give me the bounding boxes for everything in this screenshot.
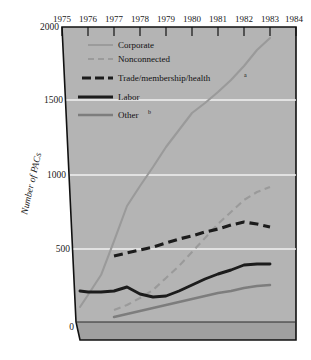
ytick-label-500: 500 xyxy=(56,244,71,254)
chart-svg: 1975 1976 1977 1978 1979 1980 1981 1982 … xyxy=(0,0,311,360)
pac-growth-chart: 1975 1976 1977 1978 1979 1980 1981 1982 … xyxy=(0,0,311,360)
legend-label-other: Other xyxy=(118,110,139,120)
ytick-label-0: 0 xyxy=(69,322,74,332)
legend-label-corporate: Corporate xyxy=(118,40,154,50)
legend-footnote-other: b xyxy=(148,109,151,115)
xtick-label-1976: 1976 xyxy=(79,14,98,24)
ytick-label-2000: 2000 xyxy=(40,22,59,32)
xtick-label-1983: 1983 xyxy=(261,14,280,24)
base-strip xyxy=(76,322,296,340)
xtick-label-1977: 1977 xyxy=(105,14,124,24)
y-axis-title: Number of PACs xyxy=(19,151,43,216)
x-axis-labels: 1975 1976 1977 1978 1979 1980 1981 1982 … xyxy=(53,14,304,24)
xtick-label-1984: 1984 xyxy=(285,14,304,24)
legend-footnote-trade-membership-health: a xyxy=(244,72,247,78)
ytick-label-1500: 1500 xyxy=(44,95,63,105)
y-axis-title-text: Number of PACs xyxy=(19,151,43,216)
legend-label-labor: Labor xyxy=(118,92,140,102)
xtick-label-1979: 1979 xyxy=(157,14,176,24)
xtick-label-1980: 1980 xyxy=(183,14,202,24)
ytick-label-1000: 1000 xyxy=(47,170,66,180)
xtick-label-1981: 1981 xyxy=(209,14,227,24)
legend-label-trade-membership-health: Trade/membership/health xyxy=(118,73,211,83)
xtick-label-1978: 1978 xyxy=(131,14,150,24)
xtick-label-1982: 1982 xyxy=(235,14,253,24)
legend-label-nonconnected: Nonconnected xyxy=(118,54,170,64)
